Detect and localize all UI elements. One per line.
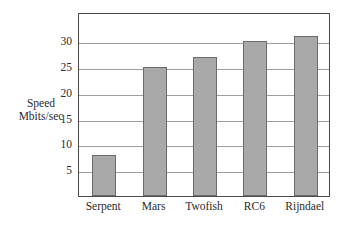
y-axis-tick-label: 15 (46, 114, 72, 126)
bar (294, 36, 318, 196)
x-axis-tick-labels: SerpentMarsTwofishRC6Rijndael (78, 199, 330, 219)
bar-chart-figure: Speed Mbits/sec 51015202530 SerpentMarsT… (0, 0, 344, 227)
y-axis-tick-label: 30 (46, 36, 72, 48)
plot-area (78, 13, 330, 197)
y-axis-tick-label: 25 (46, 62, 72, 74)
bar (92, 155, 116, 196)
bar-series (79, 14, 329, 196)
y-axis-tick-label: 5 (46, 165, 72, 177)
bar (143, 67, 167, 196)
x-axis-tick-label: Rijndael (273, 199, 337, 213)
bar (243, 41, 267, 196)
y-axis-tick-label: 10 (46, 139, 72, 151)
bar (193, 57, 217, 196)
y-axis-tick-label: 20 (46, 88, 72, 100)
